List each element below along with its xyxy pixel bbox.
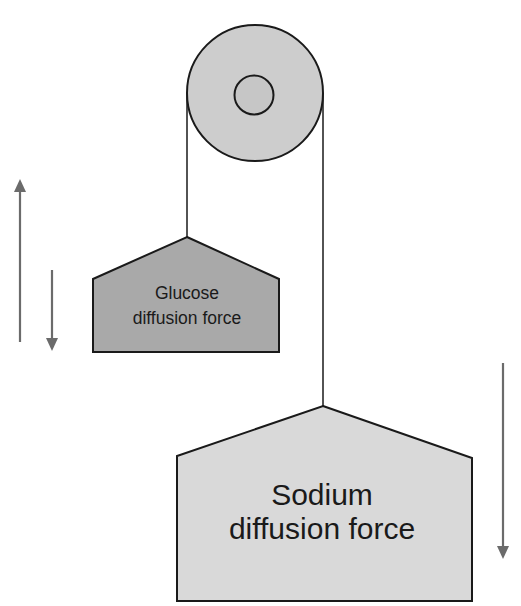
sodium-weight: Sodium diffusion force (177, 406, 472, 601)
down-arrow-icon (46, 270, 58, 351)
pulley-diagram: Glucose diffusion force Sodium diffusion… (0, 0, 521, 606)
sodium-label-line2: diffusion force (229, 512, 415, 545)
down-arrow-right-icon (497, 363, 509, 559)
sodium-label-line1: Sodium (271, 478, 373, 511)
glucose-label-line1: Glucose (155, 283, 219, 303)
up-arrow-icon (14, 179, 26, 342)
glucose-weight: Glucose diffusion force (93, 237, 279, 352)
pulley-axle (235, 76, 274, 115)
glucose-label-line2: diffusion force (133, 308, 242, 328)
